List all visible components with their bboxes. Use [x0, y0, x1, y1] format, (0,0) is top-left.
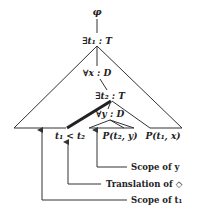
- scope-tree-diagram: φ ∃t₁ : T ∀x : D ∃t₂ : T ∀y : D t₁ < t₂ …: [0, 0, 199, 217]
- scope-y-label: Scope of y: [131, 162, 181, 172]
- small-triangle-left-edge: [89, 120, 110, 128]
- root-formula-label: φ: [92, 6, 101, 17]
- exists-t1-node: ∃t₁ : T: [82, 36, 113, 46]
- translation-arrow: [68, 142, 101, 184]
- forall-y-node: ∀y : D: [96, 109, 125, 119]
- forall-x-node: ∀x : D: [83, 68, 112, 78]
- edge-to-exists-t2: [100, 79, 107, 90]
- scope-t1-label: Scope of t₁: [131, 195, 183, 205]
- leaf-p-t1-x: P(t₁, x): [144, 131, 180, 142]
- translation-label: Translation of ◇: [106, 179, 183, 189]
- exists-t2-node: ∃t₂ : T: [95, 91, 126, 101]
- leaf-t1-less-t2: t₁ < t₂: [55, 131, 85, 141]
- leaf-p-t2-y: P(t₂, y): [102, 131, 138, 142]
